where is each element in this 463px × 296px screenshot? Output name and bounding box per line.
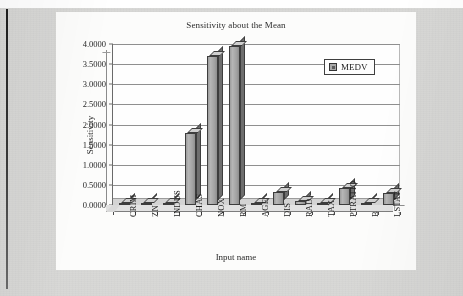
x-axis-label-rad: RAD <box>304 198 314 217</box>
gridline <box>113 145 400 146</box>
gridline <box>113 104 400 105</box>
scan-top-white-band <box>0 0 463 8</box>
chart-title: Sensitivity about the Mean <box>56 20 416 30</box>
y-axis-tick-label: 3.5000 <box>83 59 106 69</box>
page-gutter-shadow <box>6 9 8 289</box>
chart-card: Sensitivity about the Mean Sensitivity I… <box>56 12 416 270</box>
legend-label-medv: MEDV <box>341 62 368 72</box>
bar-front-face <box>207 56 218 205</box>
bar-nox <box>207 56 218 205</box>
x-axis-label-ptratio: PTRATIO <box>348 181 358 217</box>
y-axis-depth-wall <box>106 50 113 211</box>
y-axis-tick-mark <box>109 124 113 125</box>
gridline <box>113 125 400 126</box>
y-axis-tick-label: 0.5000 <box>83 180 106 190</box>
x-axis-label-b: B <box>370 211 380 217</box>
x-axis-label-crim: CRIM <box>128 194 138 217</box>
x-axis-label-nox: NOX <box>216 198 226 217</box>
bar-rm <box>229 46 240 205</box>
chart-legend: MEDV <box>324 59 375 75</box>
y-axis-tick-mark <box>109 64 113 65</box>
y-axis-tick-mark <box>109 164 113 165</box>
x-axis-label-chas: CHAS <box>194 194 204 217</box>
x-axis-label-lstat: LSTAT <box>392 191 402 217</box>
bar-side-face <box>218 46 223 200</box>
x-axis-label-dis: DIS <box>282 203 292 217</box>
y-axis-tick-label: 1.5000 <box>83 140 106 150</box>
y-axis-tick-label: 4.0000 <box>83 39 106 49</box>
gridline <box>113 84 400 85</box>
y-axis-tick-mark <box>109 104 113 105</box>
x-axis-label-zn: ZN <box>150 205 160 217</box>
x-axis-label-tax: TAX <box>326 200 336 217</box>
bar-side-face <box>240 36 245 200</box>
y-axis-tick-label: 0.0000 <box>83 200 106 210</box>
x-axis-label-indus: INDUS <box>172 190 182 217</box>
y-axis-tick-label: 2.5000 <box>83 99 106 109</box>
y-axis-tick-mark <box>109 84 113 85</box>
x-axis-label-rm: RM <box>238 203 248 217</box>
bar-front-face <box>229 46 240 205</box>
y-axis-tick-label: 3.0000 <box>83 79 106 89</box>
y-axis-tick-mark <box>109 44 113 45</box>
x-axis-label-age: AGE <box>260 199 270 217</box>
y-axis-tick-label: 2.0000 <box>83 120 106 130</box>
x-axis-tick-mark <box>113 212 114 215</box>
y-axis-tick-mark <box>109 144 113 145</box>
y-axis-tick-mark <box>109 184 113 185</box>
bar-side-face <box>196 123 201 200</box>
y-axis-tick-label: 1.0000 <box>83 160 106 170</box>
legend-swatch-medv-icon <box>329 63 337 71</box>
gridline <box>113 165 400 166</box>
gridline <box>113 44 400 45</box>
x-axis-title: Input name <box>56 252 416 262</box>
